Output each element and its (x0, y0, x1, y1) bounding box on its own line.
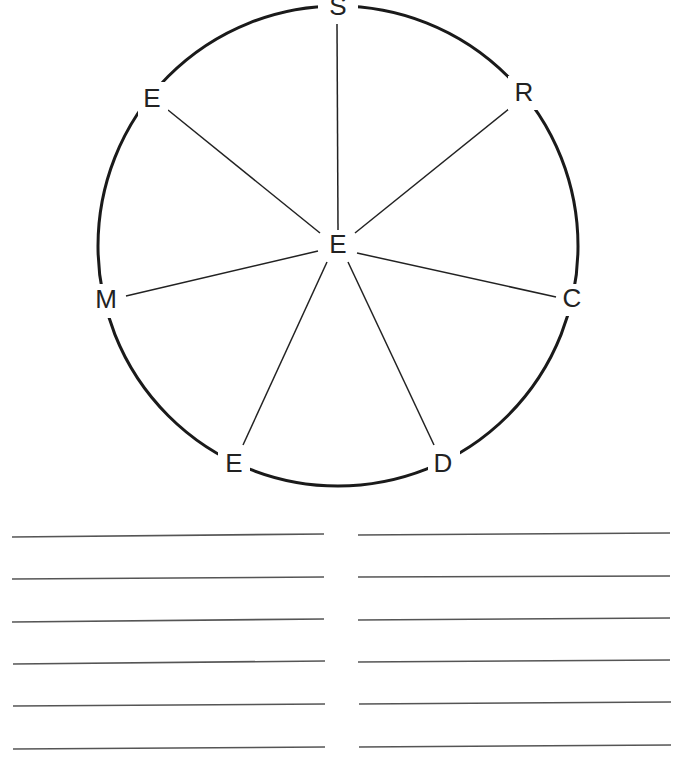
word-wheel-diagram: E S R C D E M E (0, 0, 681, 763)
answer-lines-right (358, 533, 671, 747)
outer-letter-e-top: E (143, 83, 160, 113)
outer-letter-s: S (329, 0, 346, 21)
outer-letter-m: M (95, 284, 117, 314)
outer-letter-d: D (434, 448, 453, 478)
outer-letter-c: C (563, 283, 582, 313)
outer-letter-r: R (515, 77, 534, 107)
center-letter: E (329, 229, 346, 259)
answer-lines-left (12, 534, 325, 749)
outer-letter-e-bottom: E (225, 448, 242, 478)
